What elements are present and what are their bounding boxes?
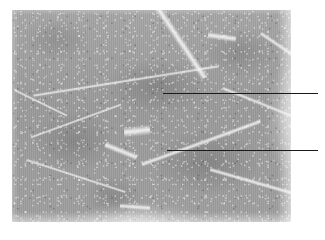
figure-root [0,0,325,240]
photo-vignette [12,10,291,222]
micrograph-image [12,10,291,222]
leader-line [167,150,318,151]
leader-line [163,93,318,94]
